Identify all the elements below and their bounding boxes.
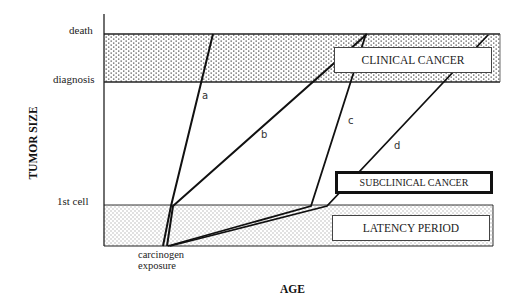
y-axis-title: TUMOR SIZE [27, 106, 39, 179]
tick-death: death [69, 24, 93, 36]
tick-first-cell: 1st cell [57, 195, 88, 207]
clinical-cancer-label: CLINICAL CANCER [362, 54, 465, 66]
trajectory-c-label: c [348, 115, 354, 126]
trajectory-a-label: a [202, 90, 208, 101]
trajectory-d-label: d [394, 140, 400, 151]
carcinogen-exposure-label: carcinogen exposure [138, 249, 184, 271]
latency-period-label: LATENCY PERIOD [363, 222, 459, 234]
x-axis-title: AGE [280, 283, 305, 295]
subclinical-cancer-label: SUBCLINICAL CANCER [360, 177, 469, 188]
latency-period-box: LATENCY PERIOD [332, 215, 490, 241]
subclinical-cancer-box: SUBCLINICAL CANCER [335, 171, 493, 194]
trajectory-b-label: b [261, 129, 267, 140]
clinical-cancer-box: CLINICAL CANCER [334, 47, 492, 73]
tick-diagnosis: diagnosis [53, 73, 95, 85]
